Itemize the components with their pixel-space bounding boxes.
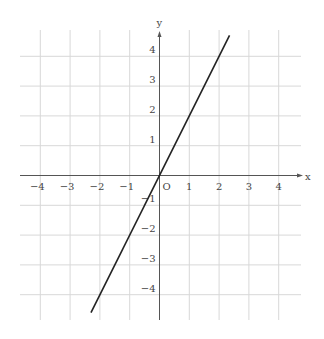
y-axis-arrowhead-icon	[158, 31, 162, 37]
x-axis-arrowhead-icon	[297, 174, 303, 178]
coordinate-plane: −4−3−2−11234 −4−3−2−11234 x y O	[0, 0, 324, 339]
y-tick-label: 4	[149, 44, 155, 55]
y-tick-label: 1	[149, 134, 155, 145]
x-axis-label: x	[305, 171, 311, 182]
y-tick-label: −4	[141, 283, 156, 294]
x-tick-label: 1	[186, 181, 192, 192]
x-tick-label: −4	[30, 181, 45, 192]
y-tick-label: −3	[141, 253, 156, 264]
x-tick-label: −2	[90, 181, 105, 192]
x-tick-label: −3	[60, 181, 75, 192]
line-y-equals-2x	[91, 35, 230, 312]
y-tick-labels: −4−3−2−11234	[141, 44, 156, 293]
plot-series	[91, 35, 230, 312]
x-tick-label: 2	[216, 181, 222, 192]
x-tick-label: 4	[276, 181, 282, 192]
origin-label: O	[163, 181, 171, 192]
x-tick-label: −1	[119, 181, 134, 192]
y-tick-label: 3	[149, 74, 155, 85]
axes	[20, 31, 303, 320]
y-tick-label: −2	[141, 223, 156, 234]
y-tick-label: 2	[149, 104, 155, 115]
y-axis-label: y	[156, 17, 163, 28]
x-tick-label: 3	[246, 181, 252, 192]
